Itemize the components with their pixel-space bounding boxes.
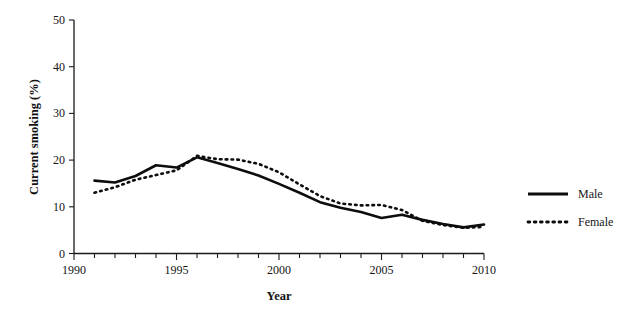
x-tick-label: 2000 xyxy=(267,263,291,277)
x-tick-label: 2010 xyxy=(472,263,496,277)
y-tick-label: 50 xyxy=(53,13,65,27)
legend-label-female: Female xyxy=(578,215,613,229)
x-tick-label: 2005 xyxy=(370,263,394,277)
y-axis: 01020304050 xyxy=(53,13,74,261)
y-tick-label: 0 xyxy=(59,247,65,261)
legend: Male Female xyxy=(528,187,613,229)
x-axis: 19901995200020052010 xyxy=(62,254,496,277)
x-axis-title: Year xyxy=(267,289,292,303)
x-tick-group: 19901995200020052010 xyxy=(62,254,496,277)
x-tick-label: 1995 xyxy=(165,263,189,277)
x-tick-label: 1990 xyxy=(62,263,86,277)
series-line-male xyxy=(95,157,485,227)
line-chart: 01020304050 19901995200020052010 Current… xyxy=(0,0,640,322)
y-tick-label: 10 xyxy=(53,200,65,214)
y-tick-label: 20 xyxy=(53,153,65,167)
y-axis-title: Current smoking (%) xyxy=(27,79,41,195)
chart-figure: 01020304050 19901995200020052010 Current… xyxy=(0,0,640,322)
y-tick-label: 30 xyxy=(53,106,65,120)
legend-label-male: Male xyxy=(578,187,603,201)
y-tick-label: 40 xyxy=(53,60,65,74)
y-tick-group: 01020304050 xyxy=(53,13,74,261)
